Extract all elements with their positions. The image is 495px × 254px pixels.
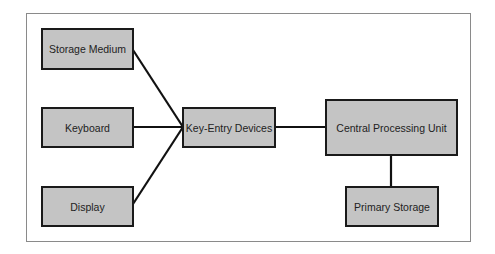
node-storage-medium: Storage Medium <box>41 28 134 70</box>
node-label: Keyboard <box>65 122 110 134</box>
edge-storage-medium-to-key-entry <box>133 50 183 127</box>
edge-display-to-key-entry <box>133 127 183 204</box>
node-label: Storage Medium <box>49 43 126 55</box>
node-label: Key-Entry Devices <box>186 122 272 134</box>
node-label: Central Processing Unit <box>336 122 446 134</box>
node-display: Display <box>41 186 134 227</box>
node-cpu: Central Processing Unit <box>325 99 458 156</box>
node-label: Primary Storage <box>354 201 430 213</box>
node-label: Display <box>70 201 104 213</box>
node-key-entry-devices: Key-Entry Devices <box>182 107 276 148</box>
node-keyboard: Keyboard <box>41 107 134 148</box>
node-primary-storage: Primary Storage <box>345 186 439 227</box>
